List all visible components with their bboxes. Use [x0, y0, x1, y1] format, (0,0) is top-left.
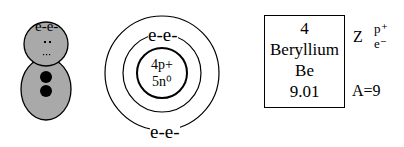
electron-label: e⁻ [374, 36, 387, 52]
atomic-mass: 9.01 [265, 81, 344, 102]
element-name: Beryllium [265, 39, 344, 60]
electron-dot [40, 71, 52, 83]
electron-dot [40, 85, 52, 97]
nucleus-neutrons: 5n⁰ [140, 74, 184, 90]
nucleus [137, 48, 187, 98]
inner-shell [123, 34, 201, 112]
dot [46, 54, 47, 55]
bohr-shell-bottom-label: e-e- [150, 122, 180, 141]
dot [49, 54, 50, 55]
dot [49, 41, 51, 43]
z-label: Z [353, 28, 363, 46]
element-card: 4 Beryllium Be 9.01 [264, 15, 345, 108]
atomic-number: 4 [265, 18, 344, 39]
lewis-electrons-label: e-e- [35, 19, 58, 34]
nucleus-protons: 4p+ [140, 57, 184, 73]
dot [43, 54, 44, 55]
bohr-shell-top-label: e-e- [148, 25, 178, 44]
mass-number-label: A=9 [352, 82, 381, 100]
lewis-figure [21, 22, 71, 120]
element-symbol: Be [265, 60, 344, 81]
proton-label: p⁺ [374, 21, 388, 37]
dot [44, 41, 46, 43]
